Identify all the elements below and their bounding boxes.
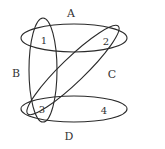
vertex-label-2: 2 bbox=[103, 36, 109, 47]
hypergraph-diagram: A B C D 1 2 3 4 bbox=[0, 0, 165, 149]
vertex-label-4: 4 bbox=[101, 105, 107, 116]
edge-label-c: C bbox=[108, 68, 116, 81]
edge-label-d: D bbox=[65, 130, 74, 143]
edge-label-a: A bbox=[66, 7, 76, 20]
vertex-label-1: 1 bbox=[41, 35, 47, 46]
hyperedge-a-ellipse bbox=[21, 24, 127, 52]
hyperedge-d-ellipse bbox=[21, 96, 127, 122]
edge-label-b: B bbox=[12, 67, 20, 80]
vertex-label-3: 3 bbox=[39, 104, 45, 115]
